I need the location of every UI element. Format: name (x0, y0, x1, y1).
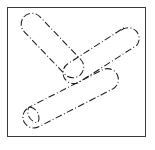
upper-left-arm-outline (21, 13, 84, 78)
technical-drawing (8, 8, 145, 136)
figure-frame (7, 7, 146, 137)
figure-container (0, 0, 155, 150)
upper-right-arm-outline (63, 27, 139, 83)
figure-caption (8, 140, 155, 150)
